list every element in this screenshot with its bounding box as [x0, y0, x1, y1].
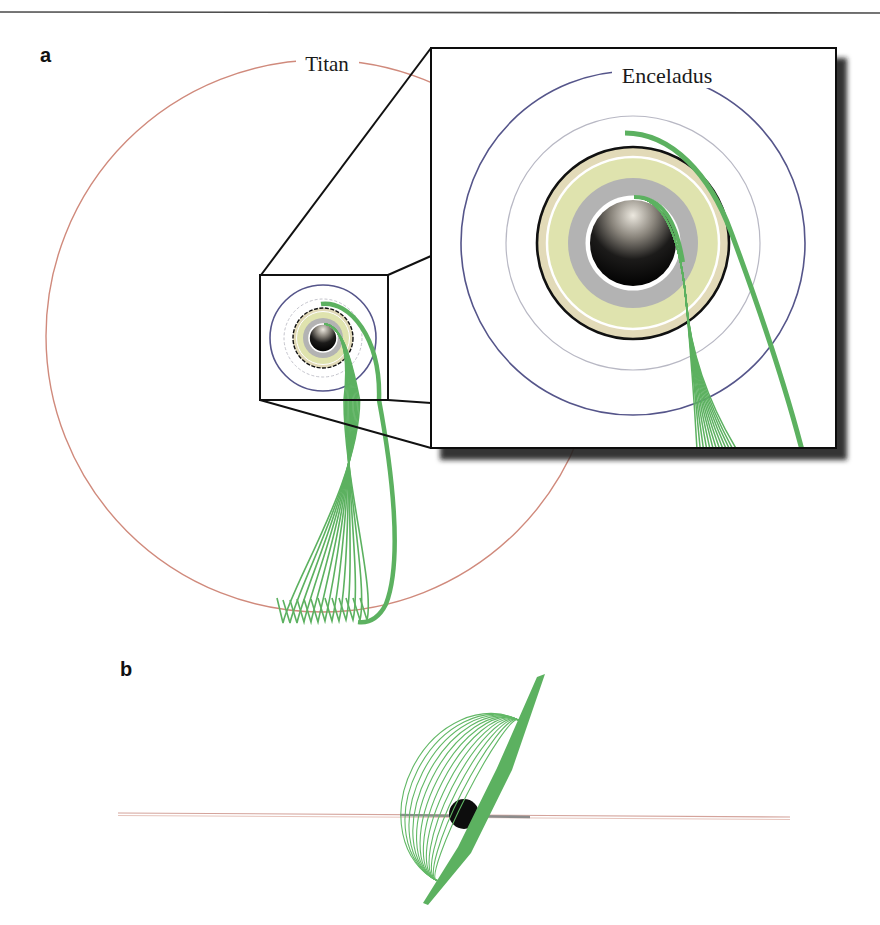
- panel-b-label: b: [120, 658, 132, 680]
- trajectory-band-edge-on: [423, 674, 545, 905]
- panel-a: a Titan: [40, 44, 836, 623]
- titan-label: Titan: [305, 52, 349, 76]
- panel-a-label: a: [40, 44, 52, 66]
- planet-sphere: [590, 200, 676, 286]
- trajectory-loops-edge-on: [372, 687, 582, 913]
- mini-planet: [310, 325, 336, 351]
- figure: a Titan: [0, 0, 880, 925]
- panel-b: b: [118, 658, 790, 913]
- enceladus-label: Enceladus: [622, 63, 712, 88]
- mini-system: [270, 285, 376, 391]
- top-rule: [0, 12, 880, 13]
